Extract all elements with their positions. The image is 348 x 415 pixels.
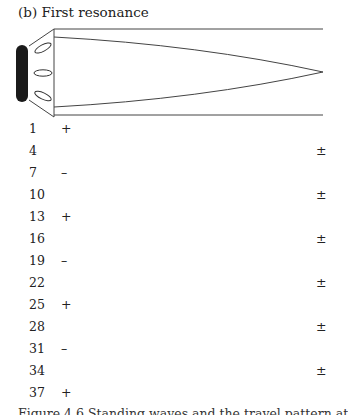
wave-envelope-lower <box>54 72 323 107</box>
row-number: 1 <box>29 121 37 136</box>
row-number: 22 <box>29 275 45 290</box>
table-row: 1 + <box>0 121 348 139</box>
table-row: 28 ± <box>0 319 348 337</box>
row-sign-right: ± <box>316 319 326 334</box>
row-number: 34 <box>29 363 45 378</box>
table-row: 37 + <box>0 385 348 403</box>
tube-diagram <box>0 0 348 120</box>
row-sign-right: ± <box>316 363 326 378</box>
table-row: 10 ± <box>0 187 348 205</box>
vent-mid <box>34 70 52 76</box>
table-row: 4 ± <box>0 143 348 161</box>
table-row: 13 + <box>0 209 348 227</box>
row-number: 19 <box>29 253 45 268</box>
row-sign-left: + <box>61 297 71 312</box>
table-row: 16 ± <box>0 231 348 249</box>
row-number: 31 <box>29 341 45 356</box>
wave-envelope-upper <box>54 37 323 72</box>
source-bar <box>16 45 28 102</box>
row-number: 4 <box>29 143 37 158</box>
row-number: 13 <box>29 209 45 224</box>
row-sign-left: – <box>61 341 67 356</box>
row-number: 25 <box>29 297 45 312</box>
table-row: 31 – <box>0 341 348 359</box>
row-number: 37 <box>29 385 45 400</box>
vent-top <box>34 41 53 55</box>
table-row: 25 + <box>0 297 348 315</box>
row-sign-left: – <box>61 253 67 268</box>
row-sign-left: – <box>61 165 67 180</box>
row-number: 16 <box>29 231 45 246</box>
row-sign-left: + <box>61 385 71 400</box>
row-number: 7 <box>29 165 37 180</box>
table-row: 19 – <box>0 253 348 271</box>
row-sign-right: ± <box>316 231 326 246</box>
row-sign-right: ± <box>316 143 326 158</box>
row-sign-right: ± <box>316 187 326 202</box>
row-sign-left: + <box>61 209 71 224</box>
vent-bottom <box>33 89 52 102</box>
row-number: 10 <box>29 187 45 202</box>
table-row: 7 – <box>0 165 348 183</box>
row-sign-right: ± <box>316 275 326 290</box>
table-row: 34 ± <box>0 363 348 381</box>
row-sign-left: + <box>61 121 71 136</box>
table-row: 22 ± <box>0 275 348 293</box>
figure-caption: Figure 4.6 Standing waves and the travel… <box>18 406 348 415</box>
row-number: 28 <box>29 319 45 334</box>
